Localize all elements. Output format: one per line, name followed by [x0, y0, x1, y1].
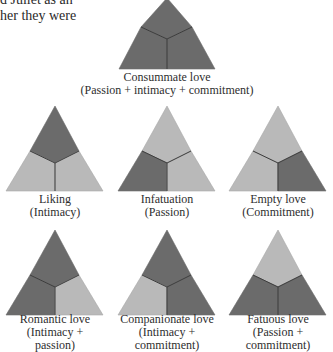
triangle-fatuous-love	[229, 230, 326, 315]
caption-romantic-love: Romantic love (Intimacy + passion)	[5, 313, 105, 352]
triangle-infatuation	[118, 106, 215, 191]
caption-empty-love: Empty love (Commitment)	[228, 193, 328, 219]
triangle-consummate-love	[119, 0, 215, 69]
caption-components-2: passion)	[5, 339, 105, 352]
triangle-companionate-love	[118, 230, 215, 315]
caption-companionate-love: Companionate love (Intimacy + commitment…	[112, 313, 222, 352]
caption-components-2: commitment)	[112, 339, 222, 352]
triangle-liking	[6, 106, 103, 191]
caption-components: (Intimacy)	[5, 206, 105, 219]
caption-liking: Liking (Intimacy)	[5, 193, 105, 219]
caption-consummate-love: Consummate love (Passion + intimacy + co…	[67, 71, 267, 97]
caption-fatuous-love: Fatuous love (Passion + commitment)	[228, 313, 328, 352]
triangle-romantic-love	[6, 230, 103, 315]
triangle-empty-love	[229, 106, 326, 191]
caption-components: (Commitment)	[228, 206, 328, 219]
caption-components: (Passion)	[117, 206, 217, 219]
caption-infatuation: Infatuation (Passion)	[117, 193, 217, 219]
caption-components-2: commitment)	[228, 339, 328, 352]
caption-components: (Passion + intimacy + commitment)	[67, 84, 267, 97]
